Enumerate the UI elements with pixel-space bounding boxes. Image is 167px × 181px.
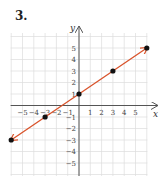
y-tick-label: 2 — [72, 79, 76, 87]
x-tick-label: 1 — [88, 109, 92, 117]
x-tick-label: −4 — [29, 109, 40, 117]
data-point — [144, 45, 149, 50]
y-tick-label: −3 — [66, 137, 76, 145]
x-tick-label: 4 — [122, 109, 127, 117]
y-tick-label: 3 — [72, 68, 76, 76]
x-tick-label: −5 — [17, 109, 27, 117]
data-point — [9, 137, 14, 142]
data-point — [43, 114, 48, 119]
data-point — [110, 68, 115, 73]
y-tick-label: 4 — [72, 56, 77, 64]
x-tick-label: 3 — [111, 109, 115, 117]
y-axis-label: y — [69, 23, 76, 33]
y-tick-label: −1 — [66, 114, 76, 122]
x-tick-label: 2 — [99, 109, 103, 117]
x-tick-label: 5 — [133, 109, 137, 117]
y-tick-label: 5 — [72, 45, 76, 53]
data-point — [76, 91, 81, 96]
y-tick-label: −5 — [66, 160, 76, 168]
y-tick-label: −2 — [66, 125, 76, 133]
coordinate-plane: xy−5−4−3−2−11234554321−1−2−3−4−5 — [0, 0, 167, 181]
y-tick-label: −4 — [66, 148, 77, 156]
x-axis-label: x — [153, 109, 158, 119]
